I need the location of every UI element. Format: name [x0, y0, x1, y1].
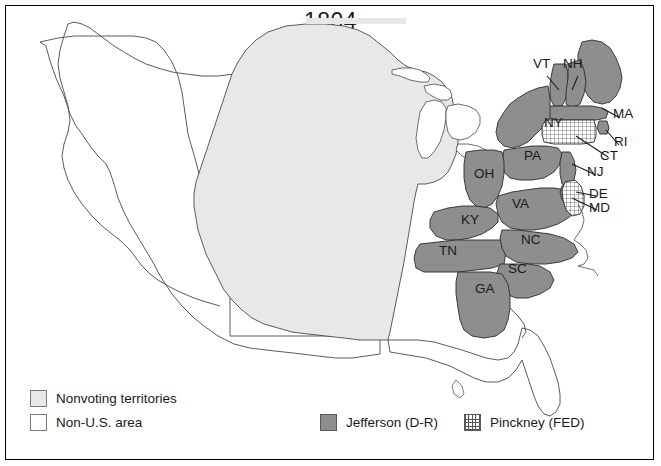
legend-label-jefferson: Jefferson (D-R) [346, 415, 438, 430]
state-label-ky: KY [461, 212, 479, 227]
jefferson-swatch-icon [320, 414, 337, 431]
state-label-ga: GA [475, 281, 495, 296]
state-label-ma: MA [613, 106, 633, 121]
state-label-va: VA [512, 196, 529, 211]
legend-item-nonvoting: Nonvoting territories [30, 390, 177, 407]
legend-candidates: Jefferson (D-R) Pinckney (FED) [320, 414, 585, 431]
state-label-de: DE [589, 186, 608, 201]
legend-item-nonus: Non-U.S. area [30, 414, 177, 431]
state-label-pa: PA [524, 148, 541, 163]
state-label-ri: RI [614, 134, 628, 149]
state-label-sc: SC [508, 261, 527, 276]
nonvoting-swatch-icon [30, 390, 47, 407]
pinckney-swatch-icon [464, 414, 481, 431]
nonus-swatch-icon [30, 414, 47, 431]
legend-label-nonus: Non-U.S. area [56, 415, 142, 430]
legend-item-jefferson: Jefferson (D-R) [320, 414, 438, 431]
state-label-nj: NJ [587, 164, 604, 179]
election-map-1804: 1804 [0, 0, 661, 466]
state-label-nh: NH [563, 56, 583, 71]
state-tn [414, 240, 506, 272]
state-label-ny: NY [544, 115, 563, 130]
state-label-tn: TN [439, 243, 457, 258]
legend-label-nonvoting: Nonvoting territories [56, 391, 177, 406]
state-label-oh: OH [474, 166, 494, 181]
state-label-md: MD [589, 200, 610, 215]
legend-territories: Nonvoting territories Non-U.S. area [30, 390, 177, 438]
legend-item-pinckney: Pinckney (FED) [464, 414, 585, 431]
legend-label-pinckney: Pinckney (FED) [490, 415, 585, 430]
state-label-nc: NC [521, 232, 541, 247]
florida-gulf-region [388, 328, 560, 416]
nonvoting-territories-region [194, 18, 458, 340]
state-label-ct: CT [600, 148, 618, 163]
state-ny [496, 86, 550, 148]
state-label-vt: VT [533, 56, 550, 71]
